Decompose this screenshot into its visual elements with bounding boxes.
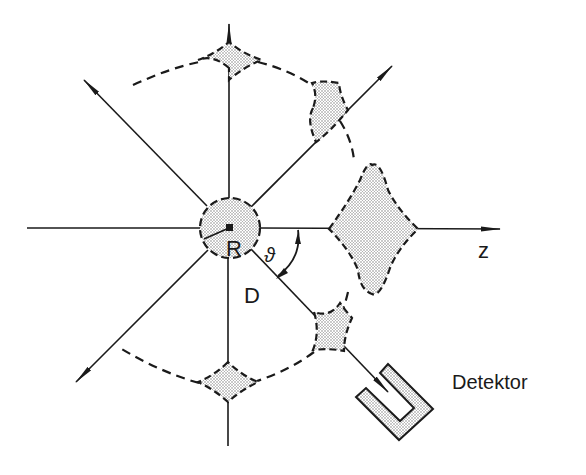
detector-shape[interactable]: [356, 364, 433, 440]
label-angle-theta: ϑ: [264, 244, 276, 266]
lobe-upper-right: [310, 82, 348, 143]
label-distance-d: D: [244, 283, 260, 308]
lobe-bottom: [198, 362, 258, 402]
lobe-lower-right: [313, 303, 352, 351]
diagram-canvas: R D ϑ z Detektor: [0, 0, 586, 475]
angle-arrowhead: [276, 232, 301, 279]
lobe-z: [329, 164, 418, 294]
ray-lower-left: [76, 250, 208, 382]
source-point: [226, 224, 233, 231]
label-detector: Detektor: [452, 371, 528, 393]
label-source-r: R: [226, 236, 242, 261]
detector[interactable]: [356, 364, 433, 440]
lobe-top: [198, 42, 262, 80]
ray-upper-left: [84, 80, 207, 206]
rays: [27, 24, 500, 446]
label-axis-z: z: [478, 238, 489, 263]
angle-arc: [278, 230, 299, 276]
